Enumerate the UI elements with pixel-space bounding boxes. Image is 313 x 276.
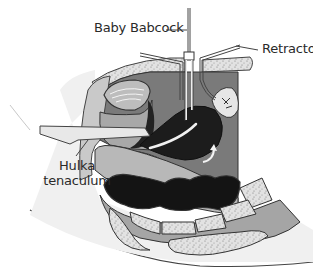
babcock-shaft: [188, 8, 190, 54]
label-hulka-line2: tenaculum: [42, 173, 112, 188]
label-baby-babcock: Baby Babcock: [94, 20, 183, 35]
babcock-head: [184, 52, 194, 60]
skin-contour: [10, 105, 30, 130]
label-retractor: Retractor: [262, 41, 313, 56]
rectum: [104, 174, 240, 210]
sacrum-segment-4: [162, 222, 196, 234]
label-hulka-line1: Hulka: [42, 158, 112, 173]
label-hulka-tenaculum: Hulka tenaculum: [42, 158, 112, 188]
abdominal-wall-right: [202, 57, 253, 72]
